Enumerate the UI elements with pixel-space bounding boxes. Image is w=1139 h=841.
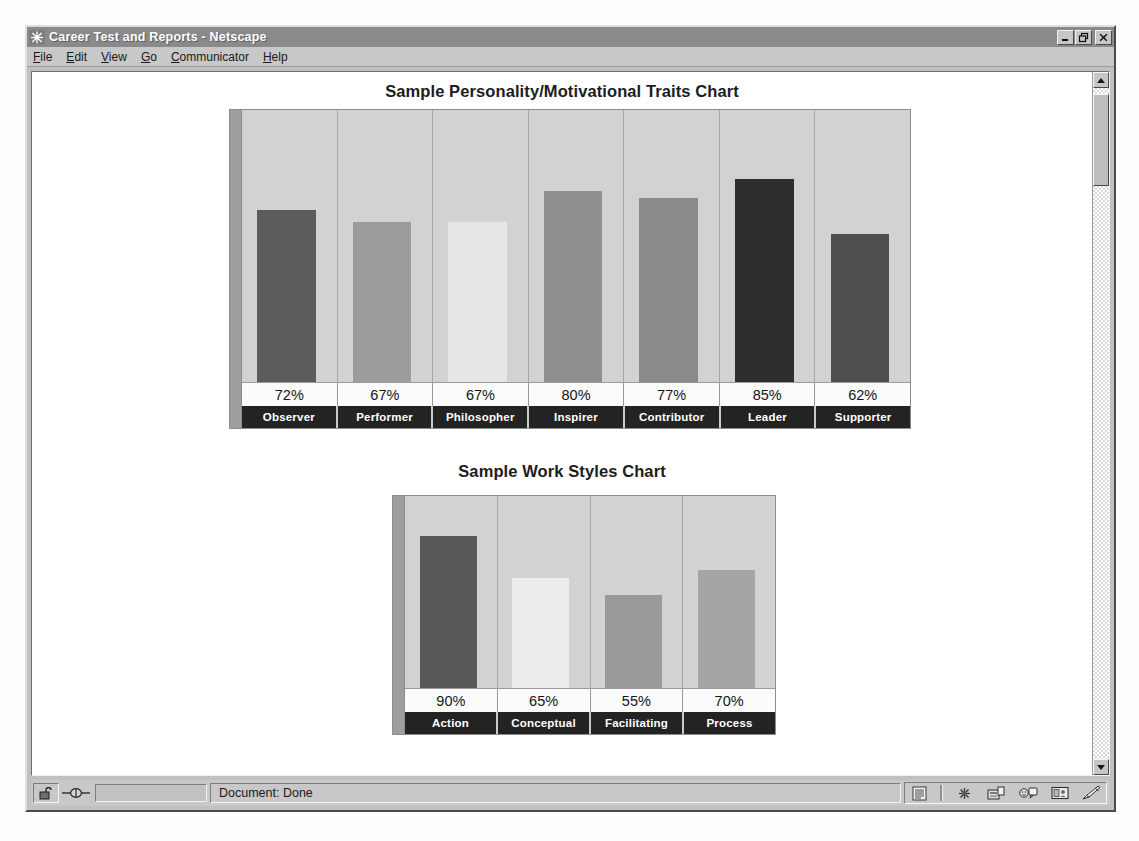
- title-bar[interactable]: Career Test and Reports - Netscape: [27, 27, 1114, 47]
- screen: Career Test and Reports - Netscape: [0, 0, 1139, 841]
- chart-bar: [544, 191, 603, 382]
- chart-category-label: Performer: [338, 406, 434, 428]
- chart-category-label: Observer: [242, 406, 338, 428]
- chart-1-value-axis-pad: [230, 382, 242, 406]
- chart-2-plot: [393, 496, 775, 688]
- restore-button[interactable]: [1075, 30, 1092, 45]
- menu-item-communicator[interactable]: Communicator: [171, 50, 249, 64]
- chart-column: [338, 110, 434, 382]
- chart-2-value-axis-pad: [393, 688, 405, 712]
- chart-1-value-cells: 72%67%67%80%77%85%62%: [242, 382, 910, 406]
- menu-mnemonic-help: H: [263, 50, 272, 64]
- chart-category-label: Philosopher: [433, 406, 529, 428]
- chart-2-columns: [405, 496, 775, 688]
- close-button[interactable]: [1095, 30, 1112, 45]
- chart-2-label-axis-pad: [393, 712, 405, 734]
- menu-rest-file: ile: [40, 50, 52, 64]
- chart-category-label: Facilitating: [591, 712, 684, 734]
- chart-column: [405, 496, 498, 688]
- menu-item-help[interactable]: Help: [263, 50, 288, 64]
- chart-category-label: Leader: [721, 406, 817, 428]
- menu-item-go[interactable]: Go: [141, 50, 157, 64]
- chart-2-label-cells: ActionConceptualFacilitatingProcess: [405, 712, 775, 734]
- progress-meter: [95, 784, 207, 802]
- contact-card-icon[interactable]: [1049, 785, 1071, 802]
- chart-1-plot: [230, 110, 910, 382]
- chart-value-label: 90%: [405, 688, 498, 712]
- chart-column: [720, 110, 816, 382]
- chart-value-label: 67%: [433, 382, 529, 406]
- menu-mnemonic-view: V: [101, 50, 109, 64]
- chart-column: [591, 496, 684, 688]
- menu-item-file[interactable]: File: [33, 50, 52, 64]
- chart-bar: [831, 234, 890, 382]
- chart-bar: [257, 210, 316, 382]
- menu-rest-edit: dit: [74, 50, 87, 64]
- chart-bar: [605, 595, 662, 688]
- chart-2-title: Sample Work Styles Chart: [32, 462, 1092, 481]
- chart-column: [498, 496, 591, 688]
- scroll-up-icon: [1097, 78, 1105, 83]
- menu-rest-help: elp: [272, 50, 288, 64]
- chart-1-columns: [242, 110, 910, 382]
- chart-value-label: 80%: [529, 382, 625, 406]
- document-canvas: Sample Personality/Motivational Traits C…: [32, 72, 1092, 775]
- chart-bar: [420, 536, 477, 688]
- chart-value-label: 70%: [683, 688, 775, 712]
- chart-column: [624, 110, 720, 382]
- personality-traits-chart: 72%67%67%80%77%85%62% ObserverPerformerP…: [229, 109, 911, 429]
- window-title: Career Test and Reports - Netscape: [49, 30, 267, 44]
- chart-2-label-row: ActionConceptualFacilitatingProcess: [393, 712, 775, 734]
- chart-value-label: 72%: [242, 382, 338, 406]
- menu-item-view[interactable]: View: [101, 50, 127, 64]
- chart-bar: [698, 570, 755, 688]
- chart-column: [683, 496, 775, 688]
- status-message: Document: Done: [210, 783, 901, 803]
- chart-value-label: 65%: [498, 688, 591, 712]
- chart-bar: [448, 222, 507, 382]
- menu-rest-go: o: [150, 50, 157, 64]
- chart-1-label-cells: ObserverPerformerPhilosopherInspirerCont…: [242, 406, 910, 428]
- menu-mnemonic-go: G: [141, 50, 150, 64]
- vertical-scrollbar[interactable]: [1092, 72, 1109, 775]
- chart-category-label: Action: [405, 712, 498, 734]
- chart-value-label: 67%: [338, 382, 434, 406]
- chart-category-label: Conceptual: [498, 712, 591, 734]
- restore-icon: [1078, 32, 1089, 43]
- scrollbar-thumb[interactable]: [1093, 94, 1109, 186]
- padlock-open-icon: [39, 787, 54, 800]
- mailbox-icon[interactable]: [953, 785, 975, 802]
- chart-1-label-axis-pad: [230, 406, 242, 428]
- minimize-icon: [1060, 32, 1071, 43]
- navigator-icon[interactable]: [908, 785, 930, 802]
- chart-bar: [639, 198, 698, 382]
- chart-bar: [735, 179, 794, 382]
- netscape-starburst-icon: [29, 30, 45, 45]
- chart-column: [529, 110, 625, 382]
- scroll-down-button[interactable]: [1093, 759, 1109, 775]
- menu-rest-communicator: ommunicator: [180, 50, 249, 64]
- chart-bar: [353, 222, 412, 382]
- chart-bar: [512, 578, 569, 688]
- menu-bar: File Edit View Go Communicator Help: [27, 47, 1114, 67]
- minimize-button[interactable]: [1057, 30, 1074, 45]
- chart-1-title-wrap: Sample Personality/Motivational Traits C…: [32, 82, 1092, 101]
- newsgroups-icon[interactable]: [985, 785, 1007, 802]
- chart-2-value-cells: 90%65%55%70%: [405, 688, 775, 712]
- work-styles-chart: 90%65%55%70% ActionConceptualFacilitatin…: [392, 495, 776, 735]
- scroll-up-button[interactable]: [1093, 72, 1109, 88]
- close-icon: [1098, 32, 1109, 43]
- chart-1-label-row: ObserverPerformerPhilosopherInspirerCont…: [230, 406, 910, 428]
- chart-category-label: Inspirer: [529, 406, 625, 428]
- menu-item-edit[interactable]: Edit: [66, 50, 87, 64]
- chart-value-label: 55%: [591, 688, 684, 712]
- connection-icon: [61, 787, 91, 799]
- chart-column: [815, 110, 910, 382]
- chart-category-label: Process: [684, 712, 775, 734]
- composer-icon[interactable]: [1081, 785, 1103, 802]
- chart-2-y-axis: [393, 496, 405, 688]
- scroll-down-icon: [1097, 765, 1105, 770]
- chart-1-title: Sample Personality/Motivational Traits C…: [32, 82, 1092, 101]
- security-lock-button[interactable]: [33, 783, 59, 803]
- address-book-icon[interactable]: [1017, 785, 1039, 802]
